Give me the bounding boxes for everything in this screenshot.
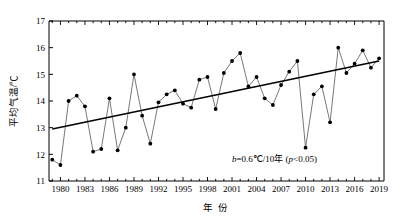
x-tick-label: 2001 [223, 184, 241, 194]
data-point [246, 84, 250, 88]
y-tick-label: 17 [36, 16, 46, 26]
data-point [287, 70, 291, 74]
data-point [108, 96, 112, 100]
data-point [304, 146, 308, 150]
x-tick-label: 1995 [174, 184, 193, 194]
y-axis-ticks: 11121314151617 [36, 16, 53, 186]
x-tick-label: 1992 [149, 184, 167, 194]
y-tick-label: 12 [36, 150, 45, 160]
x-tick-label: 2019 [370, 184, 389, 194]
x-tick-label: 1986 [100, 184, 119, 194]
temperature-trend-chart: 11121314151617 1980198319861989199219951… [0, 0, 404, 222]
p-value: <0.05) [293, 154, 317, 164]
x-tick-label: 2007 [272, 184, 291, 194]
data-point [255, 75, 259, 79]
data-point [369, 66, 373, 70]
x-tick-label: 2010 [297, 184, 316, 194]
x-tick-label: 1983 [76, 184, 95, 194]
data-point [50, 158, 54, 162]
data-point [173, 88, 177, 92]
y-tick-label: 11 [36, 176, 45, 186]
data-point [99, 147, 103, 151]
data-point [230, 59, 234, 63]
data-point [345, 71, 349, 75]
data-point [140, 114, 144, 118]
data-point [197, 78, 201, 82]
data-point [91, 150, 95, 154]
x-tick-label: 2004 [248, 184, 267, 194]
data-point [238, 51, 242, 55]
data-point [328, 120, 332, 124]
data-point [124, 126, 128, 130]
data-point [353, 62, 357, 66]
data-point [67, 99, 71, 103]
y-tick-label: 16 [36, 43, 46, 53]
x-tick-label: 2016 [346, 184, 365, 194]
data-point [181, 102, 185, 106]
y-tick-label: 15 [36, 70, 46, 80]
temperature-data-markers [50, 46, 381, 167]
data-point [116, 148, 120, 152]
x-tick-label: 2013 [321, 184, 340, 194]
data-point [165, 92, 169, 96]
trend-annotation: b=0.6℃/10年 (p<0.05) [232, 153, 317, 164]
x-tick-label: 1989 [125, 184, 144, 194]
data-point [320, 84, 324, 88]
x-tick-label: 1998 [199, 184, 218, 194]
data-point [59, 163, 63, 167]
data-point [312, 92, 316, 96]
chart-figure: 11121314151617 1980198319861989199219951… [0, 0, 404, 222]
y-tick-label: 13 [36, 123, 46, 133]
data-point [75, 94, 79, 98]
slope-value: =0.6℃/10年 ( [237, 153, 289, 164]
data-point [83, 104, 87, 108]
data-point [148, 142, 152, 146]
data-point [189, 106, 193, 110]
data-point [361, 48, 365, 52]
data-point [157, 100, 161, 104]
data-point [214, 107, 218, 111]
data-point [271, 103, 275, 107]
y-tick-label: 14 [36, 96, 46, 106]
data-point [222, 71, 226, 75]
data-point [295, 59, 299, 63]
y-axis-title: 平均气温/℃ [8, 75, 19, 128]
data-point [263, 96, 267, 100]
data-point [377, 56, 381, 60]
data-point [279, 83, 283, 87]
x-tick-label: 1980 [51, 184, 70, 194]
data-point [132, 72, 136, 76]
x-axis-title: 年 份 [203, 202, 230, 213]
data-point [336, 46, 340, 50]
data-point [206, 75, 210, 79]
plot-frame [49, 21, 384, 181]
